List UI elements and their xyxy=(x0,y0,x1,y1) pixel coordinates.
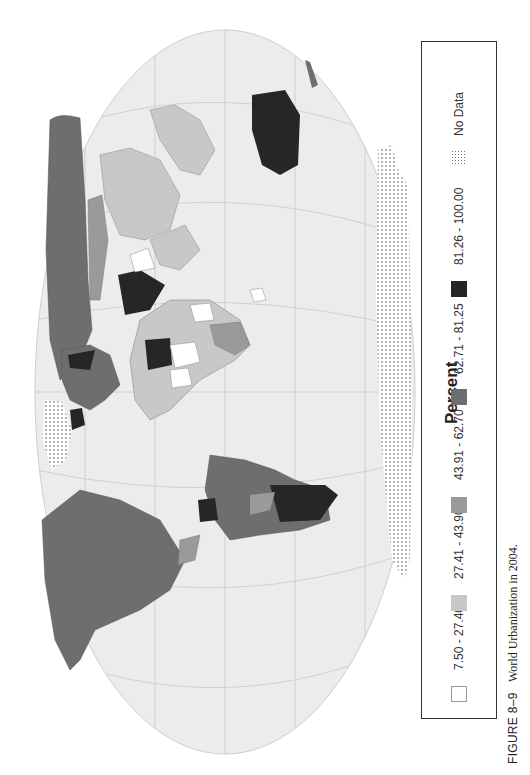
legend-swatch-nodata xyxy=(451,150,467,166)
legend-swatch-0 xyxy=(451,686,467,702)
legend-swatch-2 xyxy=(451,497,467,513)
region-sa-north-dark xyxy=(198,498,218,522)
region-africa-white-2 xyxy=(170,368,192,388)
legend-label-2: 43.91 - 62.70 xyxy=(452,409,466,480)
legend-label-1: 27.41 - 43.90 xyxy=(452,508,466,579)
legend: Percent 7.50 - 27.40 27.41 - 43.90 43.91… xyxy=(421,41,497,719)
legend-label-nodata: No Data xyxy=(452,92,466,136)
legend-label-3: 62.71 - 81.25 xyxy=(452,303,466,374)
figure-number: FIGURE 8–9 xyxy=(506,692,520,764)
legend-swatch-1 xyxy=(451,595,467,611)
legend-label-4: 81.26 - 100.00 xyxy=(452,188,466,265)
figure-caption: World Urbanization in 2004. xyxy=(506,544,521,682)
legend-swatch-4 xyxy=(451,281,467,297)
legend-label-0: 7.50 - 27.40 xyxy=(452,606,466,670)
legend-swatch-3 xyxy=(451,389,467,405)
region-north-africa-dark xyxy=(145,338,172,370)
